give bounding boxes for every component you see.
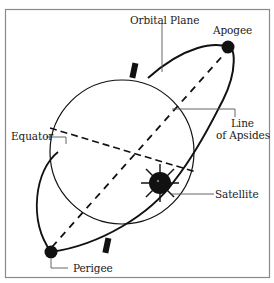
orbit-diagram: Orbital Plane Apogee Line of Apsides Equ… xyxy=(0,0,274,283)
apogee-label: Apogee xyxy=(213,24,252,36)
perigee-label: Perigee xyxy=(73,262,113,274)
line-of-apsides-label-1: Line xyxy=(231,117,254,129)
orbital-plane-label: Orbital Plane xyxy=(130,14,199,26)
apogee-dot xyxy=(222,41,235,54)
satellite-label: Satellite xyxy=(215,188,259,200)
perigee-dot xyxy=(45,246,58,259)
line-of-apsides-label-2: of Apsides xyxy=(216,129,270,141)
equator-label: Equator xyxy=(11,130,53,142)
satellite-icon xyxy=(141,164,179,202)
